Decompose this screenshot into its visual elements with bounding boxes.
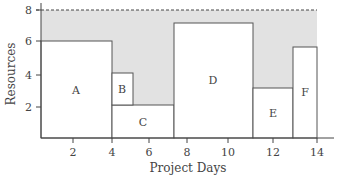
label-d: D [209, 74, 218, 87]
xtick-10: 10 [221, 146, 235, 159]
label-c: C [139, 116, 147, 129]
label-a: A [71, 84, 81, 97]
xtick-6: 6 [146, 146, 153, 159]
label-f: F [301, 86, 309, 99]
y-ticks [36, 10, 41, 107]
xtick-8: 8 [184, 146, 191, 159]
ytick-4: 4 [25, 69, 32, 82]
xtick-12: 12 [266, 146, 280, 159]
resource-histogram-chart: A B C D E F 2 4 6 8 2 4 6 8 10 12 14 [0, 0, 338, 180]
y-axis-label: Resources [4, 43, 18, 106]
xtick-2: 2 [70, 146, 77, 159]
x-ticks [73, 138, 317, 143]
ytick-8: 8 [25, 4, 32, 17]
label-b: B [118, 83, 126, 96]
label-e: E [269, 107, 277, 120]
xtick-14: 14 [310, 146, 324, 159]
ytick-2: 2 [25, 101, 32, 114]
x-axis-label: Project Days [150, 161, 227, 175]
xtick-4: 4 [109, 146, 116, 159]
ytick-6: 6 [25, 35, 32, 48]
